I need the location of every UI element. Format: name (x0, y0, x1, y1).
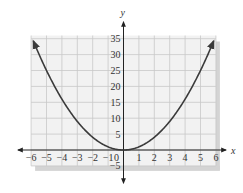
y-tick-label: 35 (111, 33, 121, 44)
x-tick-label: 1 (136, 152, 141, 163)
y-tick-label: −5 (110, 160, 121, 171)
y-tick-label: 15 (111, 97, 121, 108)
y-tick-label: 30 (111, 49, 121, 60)
x-tick-label: 3 (167, 152, 172, 163)
x-tick-label: −3 (72, 152, 83, 163)
x-tick-label: 5 (198, 152, 203, 163)
x-tick-label: 6 (213, 152, 218, 163)
y-tick-label: 20 (111, 81, 121, 92)
x-tick-label: −6 (26, 152, 37, 163)
y-tick-label: 10 (111, 113, 121, 124)
x-tick-label: 2 (152, 152, 157, 163)
y-tick-label: 5 (116, 129, 121, 140)
y-axis-label: y (120, 7, 126, 18)
x-tick-label: −5 (41, 152, 52, 163)
x-tick-label: −4 (57, 152, 68, 163)
x-tick-label: 4 (183, 152, 188, 163)
x-axis-label: x (230, 145, 236, 156)
x-tick-label: −2 (87, 152, 98, 163)
parabola-chart: −6−5−4−3−2−10123456−55101520253035 x y (0, 0, 243, 193)
y-tick-label: 25 (111, 65, 121, 76)
